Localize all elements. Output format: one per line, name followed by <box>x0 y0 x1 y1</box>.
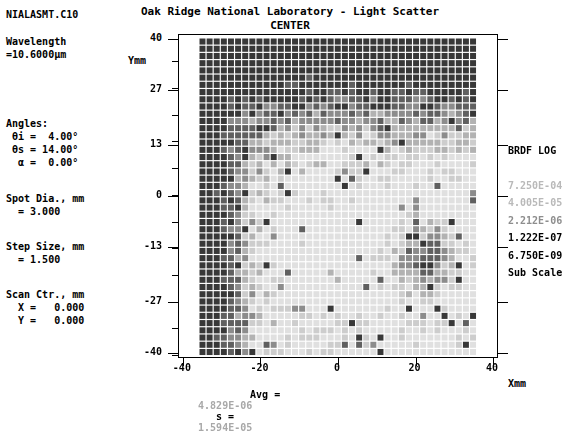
y-axis-tick-label: 0 <box>122 190 162 200</box>
legend-value-0: 7.250E-04 <box>508 177 580 195</box>
y-tick-major-right <box>497 353 508 354</box>
y-tick-minor <box>172 222 179 223</box>
legend-value-3: 1.222E-07 <box>508 229 580 247</box>
y-tick-minor <box>172 61 179 62</box>
s-label: s = <box>216 411 234 422</box>
y-tick-major <box>168 145 179 146</box>
y-tick-major <box>168 196 179 197</box>
x-axis-tick-label: -20 <box>239 363 279 373</box>
y-tick-major <box>168 90 179 91</box>
y-axis-tick-label: 27 <box>122 84 162 94</box>
x-axis-tick-label: 40 <box>472 363 512 373</box>
y-axis-tick-label: -13 <box>122 241 162 251</box>
y-tick-major-right <box>497 247 508 248</box>
y-tick-major-right <box>497 196 508 197</box>
y-tick-minor <box>172 302 179 303</box>
y-tick-minor <box>172 88 179 89</box>
y-axis-tick-label: -40 <box>122 347 162 357</box>
y-axis-tick-label: 13 <box>122 139 162 149</box>
alpha-value: α = 0.00° <box>6 156 156 169</box>
heatmap-canvas[interactable] <box>179 35 497 357</box>
y-tick-minor <box>172 168 179 169</box>
statistics-bar: Avg = 4.829E-06 s = 1.594E-05 <box>178 378 508 433</box>
legend-footer: Sub Scale <box>508 264 580 282</box>
y-tick-major-right <box>497 145 508 146</box>
y-tick-major-right <box>497 39 508 40</box>
file-label: NIALASMT.C10 <box>6 8 156 21</box>
y-tick-minor <box>172 248 179 249</box>
avg-value: 4.829E-06 <box>198 400 252 411</box>
legend-title: BRDF LOG <box>508 142 580 160</box>
y-axis-tick-label: 40 <box>122 33 162 43</box>
step-size-value: = 1.500 <box>6 253 156 266</box>
y-tick-minor <box>172 141 179 142</box>
legend-value-1: 4.005E-05 <box>508 194 580 212</box>
x-axis-tick-label: 20 <box>395 363 435 373</box>
legend-value-4: 6.750E-09 <box>508 247 580 265</box>
y-tick-minor <box>172 195 179 196</box>
angles-label: Angles: <box>6 117 156 130</box>
y-tick-major-right <box>497 90 508 91</box>
x-axis-title: Xmm <box>508 378 526 389</box>
y-tick-major-right <box>497 302 508 303</box>
brdf-legend: BRDF LOG 7.250E-04 4.005E-05 2.212E-06 1… <box>508 142 580 282</box>
y-tick-minor <box>172 328 179 329</box>
y-tick-major <box>168 39 179 40</box>
y-axis-title: Ymm <box>128 55 146 66</box>
y-tick-major <box>168 353 179 354</box>
avg-label: Avg = <box>250 389 280 400</box>
scatter-map-plot[interactable] <box>178 34 498 358</box>
x-axis-tick-label: -40 <box>162 363 202 373</box>
s-value: 1.594E-05 <box>198 422 252 433</box>
y-tick-minor <box>172 275 179 276</box>
y-axis-tick-label: -27 <box>122 296 162 306</box>
scan-ctr-y-value: Y = 0.000 <box>6 314 156 327</box>
y-tick-minor <box>172 115 179 116</box>
legend-value-2: 2.212E-06 <box>508 212 580 230</box>
x-axis-tick-label: 0 <box>317 363 357 373</box>
y-tick-minor <box>172 355 179 356</box>
spot-dia-value: = 3.000 <box>6 205 156 218</box>
